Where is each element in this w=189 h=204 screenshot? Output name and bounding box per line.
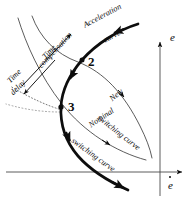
diagram-canvas (0, 0, 189, 204)
node-2-label: 2 (88, 55, 95, 68)
edot-glyph: e (168, 180, 173, 191)
time-delay-guide-path-lower (6, 104, 60, 112)
derivative-dot-icon (169, 176, 171, 178)
horizontal-axis-label: e (168, 180, 173, 191)
nominal-switching-curve-arrow (102, 140, 110, 145)
phase-plane-figure: Acceleration curve New switching curve N… (0, 0, 189, 204)
node-2-dot (80, 58, 85, 63)
vertical-axis-label: e (170, 32, 175, 43)
horizontal-axis-label-text: e (168, 179, 173, 191)
node-3-label: 3 (68, 100, 75, 113)
acceleration-curve-arrow-4 (112, 182, 124, 188)
node-3-dot (58, 104, 63, 109)
